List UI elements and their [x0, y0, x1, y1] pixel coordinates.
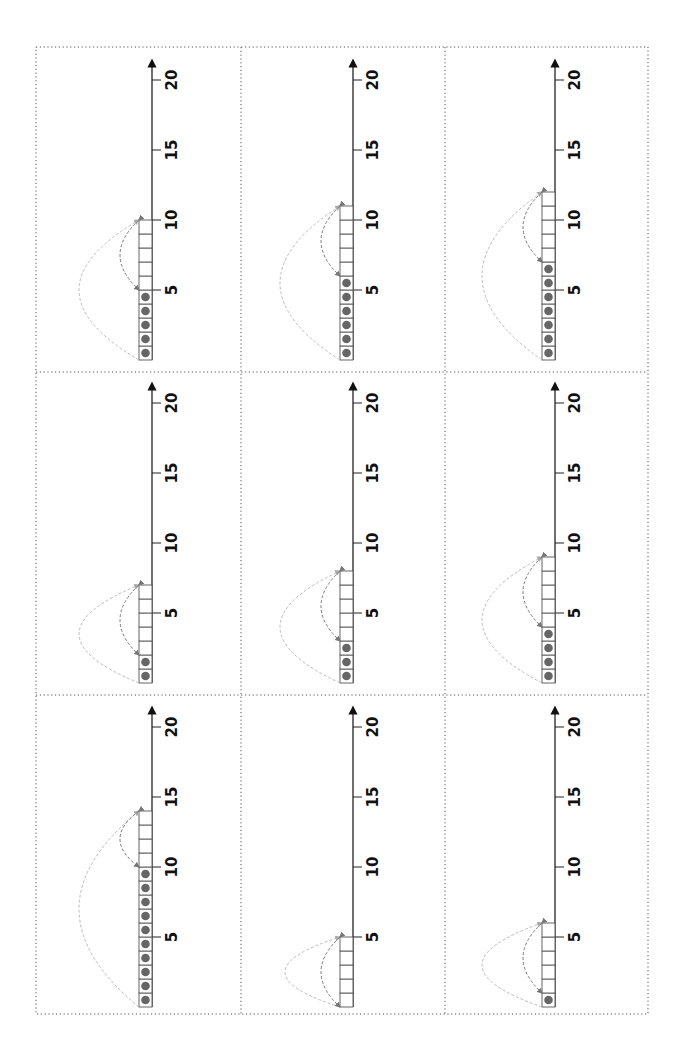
frame-cell: [340, 599, 353, 613]
frame-cell: [542, 599, 555, 613]
frame-cell: [340, 951, 353, 965]
jump-arc-total: [482, 192, 542, 360]
axis-tick-label: 5: [163, 932, 181, 942]
frame-cell: [542, 613, 555, 627]
number-line-panel: 5101520: [280, 386, 382, 683]
jump-arc-total: [482, 557, 542, 683]
jump-arc-part: [523, 192, 542, 262]
counter-dot: [342, 658, 351, 667]
counter-dot: [141, 321, 150, 330]
counter-dot: [544, 293, 553, 302]
frame-cell: [542, 571, 555, 585]
number-line-panel: 5101520: [280, 63, 382, 360]
axis-tick-label: 10: [566, 857, 584, 878]
axis-tick-label: 10: [364, 857, 382, 878]
frame-cell: [340, 627, 353, 641]
axis-tick-label: 10: [364, 533, 382, 554]
jump-arc-part: [321, 571, 340, 641]
worksheet: 5101520510152051015205101520510152051015…: [0, 0, 684, 1063]
jump-arc-part: [321, 206, 340, 276]
frame-cell: [139, 811, 152, 825]
counter-dot: [544, 658, 553, 667]
axis-tick-label: 15: [364, 463, 382, 484]
counter-dot: [141, 912, 150, 921]
counter-dot: [342, 307, 351, 316]
number-line-panel: 5101520: [482, 386, 584, 683]
counter-dot: [141, 926, 150, 935]
frame-cell: [542, 557, 555, 571]
counter-dot: [342, 321, 351, 330]
jump-arc-part: [120, 811, 139, 867]
number-line-panel: 5101520: [79, 63, 181, 360]
frame-cell: [340, 585, 353, 599]
jump-arc-total: [285, 937, 340, 1007]
frame-cell: [139, 262, 152, 276]
number-line-panel: 5101520: [482, 710, 584, 1007]
jump-arc-part: [523, 557, 542, 627]
frame-cell: [542, 234, 555, 248]
frame-cell: [542, 923, 555, 937]
counter-dot: [544, 996, 553, 1005]
axis-tick-label: 15: [566, 140, 584, 161]
axis-tick-label: 5: [364, 932, 382, 942]
axis-tick-label: 15: [364, 140, 382, 161]
counter-dot: [544, 321, 553, 330]
frame-cell: [139, 585, 152, 599]
frame-cell: [340, 937, 353, 951]
frame-cell: [542, 192, 555, 206]
jump-arc-total: [280, 571, 340, 683]
axis-tick-label: 5: [566, 285, 584, 295]
jump-arc-total: [79, 585, 139, 683]
axis-tick-label: 20: [364, 717, 382, 738]
frame-cell: [340, 993, 353, 1007]
axis-tick-label: 5: [163, 608, 181, 618]
frame-cell: [542, 951, 555, 965]
axis-tick-label: 10: [566, 533, 584, 554]
counter-dot: [342, 644, 351, 653]
frame-cell: [139, 839, 152, 853]
jump-arc-total: [482, 923, 542, 1007]
jump-arc-part: [523, 923, 542, 993]
axis-tick-label: 20: [163, 717, 181, 738]
axis-tick-label: 15: [163, 463, 181, 484]
frame-cell: [542, 220, 555, 234]
counter-dot: [141, 870, 150, 879]
axis-tick-label: 15: [566, 463, 584, 484]
frame-cell: [542, 206, 555, 220]
frame-cell: [542, 979, 555, 993]
counter-dot: [141, 940, 150, 949]
axis-tick-label: 10: [163, 857, 181, 878]
counter-dot: [141, 672, 150, 681]
outer-border: [36, 47, 648, 1014]
axis-tick-label: 5: [566, 932, 584, 942]
counter-dot: [544, 349, 553, 358]
counter-dot: [342, 672, 351, 681]
frame-cell: [340, 206, 353, 220]
axis-tick-label: 20: [163, 70, 181, 91]
counter-dot: [141, 349, 150, 358]
counter-dot: [141, 335, 150, 344]
counter-dot: [342, 335, 351, 344]
axis-tick-label: 15: [566, 787, 584, 808]
axis-tick-label: 5: [364, 285, 382, 295]
number-line-panel: 5101520: [79, 386, 181, 683]
frame-cell: [340, 571, 353, 585]
frame-cell: [340, 248, 353, 262]
frame-cell: [139, 220, 152, 234]
frame-cell: [139, 599, 152, 613]
jump-arc-part: [321, 937, 340, 1007]
frame-cell: [139, 613, 152, 627]
counter-dot: [342, 279, 351, 288]
axis-tick-label: 10: [163, 533, 181, 554]
frame-cell: [340, 234, 353, 248]
jump-arc-part: [120, 220, 139, 290]
axis-tick-label: 20: [364, 393, 382, 414]
counter-dot: [342, 293, 351, 302]
frame-cell: [139, 825, 152, 839]
counter-dot: [342, 349, 351, 358]
frame-cell: [340, 262, 353, 276]
frame-cell: [139, 853, 152, 867]
counter-dot: [141, 293, 150, 302]
frame-cell: [542, 248, 555, 262]
number-line-panel: 5101520: [285, 710, 382, 1007]
